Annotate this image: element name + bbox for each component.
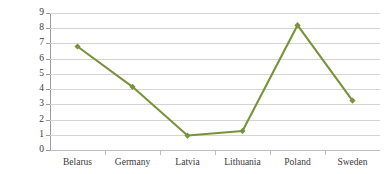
y-axis-tick-label: 0 [14, 145, 44, 155]
line-chart: 0123456789BelarusGermanyLatviaLithuaniaP… [0, 0, 388, 174]
y-axis-tick-mark [46, 74, 50, 75]
x-axis-tick-mark [105, 151, 106, 155]
y-axis-tick-mark [46, 59, 50, 60]
y-axis-tick-label: 2 [14, 115, 44, 125]
x-axis-tick-label: Belarus [50, 157, 105, 168]
x-axis-tick-mark [160, 151, 161, 155]
x-axis-tick-label: Sweden [325, 157, 380, 168]
y-axis-tick-mark [46, 104, 50, 105]
y-axis-tick-mark [46, 135, 50, 136]
x-axis-tick-label: Lithuania [215, 157, 270, 168]
y-axis-tick-mark [46, 89, 50, 90]
y-axis-tick-label: 7 [14, 38, 44, 48]
y-axis-tick-mark [46, 150, 50, 151]
y-axis-tick-mark [46, 43, 50, 44]
x-axis-tick-label: Poland [270, 157, 325, 168]
y-axis-tick-label: 1 [14, 130, 44, 140]
x-axis-tick-label: Latvia [160, 157, 215, 168]
series-markers [74, 22, 355, 139]
y-axis-tick-mark [46, 13, 50, 14]
series-layer [0, 0, 388, 174]
y-axis-tick-label: 9 [14, 8, 44, 18]
x-axis-tick-mark [215, 151, 216, 155]
x-axis-tick-label: Germany [105, 157, 160, 168]
x-axis-tick-mark [325, 151, 326, 155]
x-axis-tick-mark [270, 151, 271, 155]
y-axis-tick-label: 4 [14, 84, 44, 94]
y-axis-tick-mark [46, 28, 50, 29]
y-axis-tick-label: 8 [14, 23, 44, 33]
series-line-path [78, 25, 353, 135]
y-axis-tick-mark [46, 120, 50, 121]
y-axis-tick-label: 3 [14, 99, 44, 109]
y-axis-tick-label: 5 [14, 69, 44, 79]
y-axis-tick-label: 6 [14, 54, 44, 64]
